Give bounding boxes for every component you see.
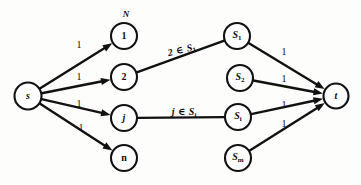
node-label-subscript: i bbox=[240, 115, 242, 123]
edge-line bbox=[40, 104, 108, 148]
arrow-head bbox=[315, 103, 325, 111]
node-label-text: t bbox=[335, 90, 338, 101]
arrow-head bbox=[102, 43, 112, 51]
node-label-text: 2 bbox=[122, 71, 127, 82]
edge-capacity-label-w-s-1: 1 bbox=[77, 40, 82, 50]
edge-capacity-label-w-S1-t: 1 bbox=[282, 47, 287, 57]
node-label-sm: Sm bbox=[232, 152, 243, 164]
arrow-head bbox=[102, 142, 112, 150]
node-label-subscript: m bbox=[238, 156, 244, 164]
edge-capacity-label-w-s-j: 1 bbox=[77, 99, 82, 109]
edge-Sm-t bbox=[249, 103, 324, 151]
node-label-subscript: 1 bbox=[238, 34, 242, 42]
node-label-text: j bbox=[123, 112, 126, 123]
membership-label-set-j-Si: j ∈ Si bbox=[172, 107, 197, 119]
annotation-network-label: N bbox=[123, 10, 130, 19]
edge-capacity-label-w-s-n: 1 bbox=[79, 123, 84, 133]
edge-s-n bbox=[40, 104, 113, 151]
graph-canvas bbox=[0, 0, 361, 185]
node-label-si: Si bbox=[234, 111, 242, 123]
node-label-nj: j bbox=[123, 113, 126, 123]
node-label-nn: n bbox=[121, 153, 127, 163]
network-flow-figure: s12jnS1S2SiSmt111111112 ∈ S1j ∈ SiN bbox=[0, 0, 361, 185]
edge-capacity-label-w-S2-t: 1 bbox=[282, 74, 287, 84]
node-label-t: t bbox=[335, 91, 338, 101]
node-label-text: s bbox=[26, 90, 30, 101]
edge-capacity-label-w-s-2: 1 bbox=[77, 72, 82, 82]
node-label-s2: S2 bbox=[235, 72, 244, 84]
element-of-icon: ∈ bbox=[174, 106, 188, 117]
node-label-n2: 2 bbox=[122, 72, 127, 82]
node-label-s: s bbox=[26, 91, 30, 101]
node-label-text: n bbox=[121, 152, 127, 163]
arrow-head bbox=[100, 78, 110, 85]
arrow-head bbox=[313, 97, 323, 104]
arrow-head bbox=[100, 109, 110, 116]
membership-set-subscript: i bbox=[194, 111, 196, 119]
edge-capacity-label-w-Si-t: 1 bbox=[282, 100, 287, 110]
node-label-subscript: 2 bbox=[241, 76, 245, 84]
node-label-s1: S1 bbox=[232, 30, 241, 42]
node-label-text: 1 bbox=[122, 30, 127, 41]
arrow-head bbox=[313, 88, 323, 95]
edge-capacity-label-w-Sm-t: 1 bbox=[282, 119, 287, 129]
node-label-n1: 1 bbox=[122, 31, 127, 41]
arrow-head bbox=[315, 81, 325, 89]
